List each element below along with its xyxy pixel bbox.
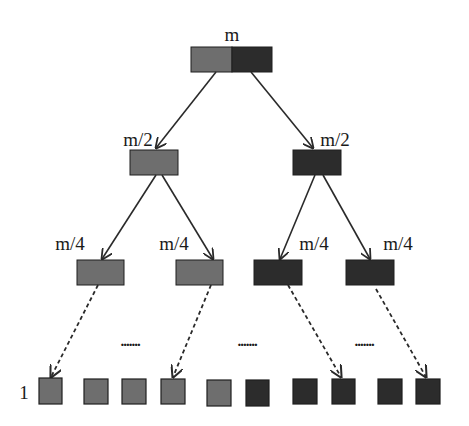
ellipsis-3: ....... <box>354 333 375 349</box>
leaf-2 <box>84 379 108 404</box>
level3-box-4 <box>346 260 394 285</box>
level2-right-box <box>293 150 341 175</box>
level2-left-label: m/2 <box>123 129 153 150</box>
edge-l2left-l3-1 <box>102 175 156 259</box>
leaf-label: 1 <box>19 382 29 403</box>
leaf-3 <box>122 379 146 404</box>
level3-node-4: m/4 <box>346 233 413 285</box>
level3-box-2 <box>176 260 223 285</box>
level2-right-label: m/2 <box>320 129 350 150</box>
leaves-row <box>39 378 440 406</box>
root-left-half <box>191 47 232 72</box>
leaf-8 <box>332 379 355 404</box>
level3-box-3 <box>254 260 302 285</box>
leaf-4 <box>161 379 185 404</box>
leaf-5 <box>207 380 231 406</box>
leaf-9 <box>378 379 402 404</box>
level2-left-node: m/2 <box>123 129 178 175</box>
root-label: m <box>225 24 240 45</box>
dashed-edge-1 <box>51 285 98 377</box>
level2-left-box <box>130 150 178 175</box>
dashed-edge-3 <box>288 285 341 377</box>
level3-label-4: m/4 <box>383 233 413 254</box>
level3-label-1: m/4 <box>55 233 85 254</box>
edge-l2right-l3-4 <box>323 175 370 259</box>
edge-root-right <box>251 72 313 148</box>
root-node: m <box>191 24 272 72</box>
level3-box-1 <box>77 260 124 285</box>
level3-node-2: m/4 <box>159 233 223 285</box>
leaf-6 <box>246 380 269 406</box>
dashed-edge-4 <box>376 289 426 377</box>
dashed-edge-2 <box>173 285 211 377</box>
tree-diagram: m m/2 m/2 m/4 m/4 m/4 m/4 ....... ..... <box>0 0 469 426</box>
root-right-half <box>232 47 272 72</box>
level3-label-2: m/4 <box>159 233 189 254</box>
level2-right-node: m/2 <box>293 129 350 175</box>
leaf-1 <box>39 378 62 404</box>
level3-label-3: m/4 <box>299 233 329 254</box>
ellipsis-1: ....... <box>120 333 141 349</box>
level3-node-3: m/4 <box>254 233 329 285</box>
ellipsis-2: ....... <box>237 333 258 349</box>
leaf-10 <box>416 379 440 404</box>
edge-root-left <box>156 72 216 148</box>
leaf-7 <box>293 379 317 404</box>
